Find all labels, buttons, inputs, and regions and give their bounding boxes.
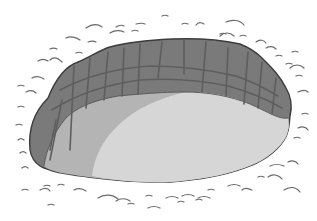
pit-illustration: Grayscale illustration of an oval pit wi… bbox=[0, 0, 317, 221]
pit-drawing bbox=[0, 0, 317, 221]
